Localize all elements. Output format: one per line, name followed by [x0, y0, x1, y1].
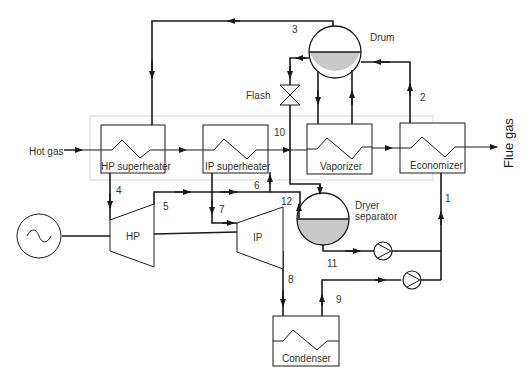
ip-superheater-label: IP superheater [205, 161, 270, 172]
flash-valve [280, 85, 300, 105]
condenser-label: Condenser [282, 353, 331, 364]
state-point-11: 11 [327, 258, 337, 269]
state-point-2: 2 [420, 92, 426, 103]
state-point-1: 1 [445, 193, 451, 204]
economizer-label: Economizer [410, 160, 463, 171]
generator [17, 214, 61, 258]
separator-label: separator [355, 211, 397, 222]
flue-gas-label: Flue gas [503, 118, 514, 168]
drum-label: Drum [370, 32, 394, 43]
state-point-3: 3 [292, 24, 298, 35]
state-point-4: 4 [116, 185, 122, 196]
state-point-10: 10 [274, 127, 285, 138]
drum [309, 26, 361, 78]
pump-1 [374, 242, 392, 260]
pump-2 [403, 271, 421, 289]
state-point-7: 7 [219, 204, 225, 215]
vaporizer-label: Vaporizer [320, 161, 362, 172]
steam-cycle-diagram: Hot gas HP superheater IP superheater Va… [0, 0, 531, 381]
dryer-separator [297, 193, 349, 245]
hot-gas-label: Hot gas [29, 146, 63, 157]
state-point-8: 8 [288, 274, 294, 285]
state-point-12: 12 [281, 196, 292, 207]
state-point-9: 9 [336, 294, 342, 305]
state-point-6: 6 [254, 180, 260, 191]
hp-turbine-label: HP [126, 231, 140, 242]
diagram-canvas [0, 0, 531, 381]
hp-superheater-label: HP superheater [101, 161, 171, 172]
ip-turbine-label: IP [253, 232, 262, 243]
dryer-label: Dryer [355, 200, 379, 211]
state-point-5: 5 [163, 201, 169, 212]
flash-label: Flash [246, 90, 270, 101]
